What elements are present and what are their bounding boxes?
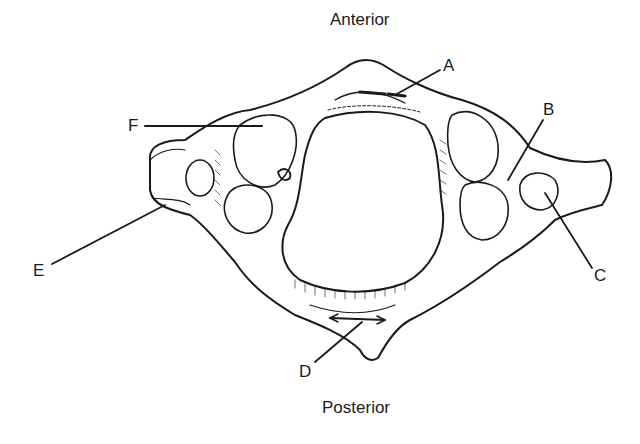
right-superior-facet bbox=[448, 112, 499, 182]
label-b: B bbox=[543, 100, 554, 120]
orientation-label-anterior: Anterior bbox=[330, 10, 390, 30]
posterior-arch-ridge bbox=[310, 305, 395, 313]
vertebra-drawing bbox=[0, 0, 640, 444]
leader-line-e bbox=[52, 205, 165, 264]
label-d: D bbox=[299, 362, 311, 382]
atlas-vertebra-diagram: Anterior Posterior A B C D E F bbox=[0, 0, 640, 444]
leader-line-d bbox=[315, 322, 362, 362]
vertebral-foramen bbox=[282, 112, 443, 292]
leader-line-c bbox=[545, 193, 592, 268]
label-e: E bbox=[33, 261, 44, 281]
label-a: A bbox=[443, 56, 454, 76]
left-transverse-foramen bbox=[186, 160, 214, 196]
orientation-label-posterior: Posterior bbox=[322, 398, 390, 418]
label-c: C bbox=[594, 266, 606, 286]
label-f: F bbox=[128, 116, 138, 136]
